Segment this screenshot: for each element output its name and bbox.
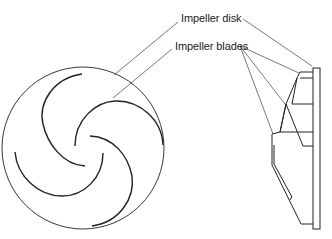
leader-lines (113, 19, 312, 134)
side-view (272, 68, 320, 229)
label-impeller-blades: Impeller blades (175, 40, 248, 52)
impeller-blade-2 (75, 101, 163, 146)
front-view (2, 67, 164, 229)
impeller-blade-1 (42, 74, 85, 166)
impeller-blade-side-upper (292, 72, 313, 104)
impeller-blade-3 (90, 136, 132, 226)
impeller-disk-side (313, 68, 320, 229)
leader-impeller-blades-2 (240, 46, 285, 104)
leader-impeller-disk (243, 19, 312, 66)
blade-edge (274, 145, 292, 200)
leader-impeller-blades-front (113, 49, 172, 98)
impeller-disk-outline (2, 67, 164, 229)
impeller-blade-side-middle (280, 78, 313, 132)
impeller-diagram: Impeller disk Impeller blades (0, 0, 332, 239)
blade-edge (286, 104, 313, 146)
leader-impeller-disk-front (114, 22, 178, 75)
blade-edge (280, 104, 286, 132)
label-impeller-disk: Impeller disk (181, 12, 241, 24)
impeller-blade-side-lower (272, 134, 313, 224)
impeller-blade-4 (15, 152, 103, 196)
